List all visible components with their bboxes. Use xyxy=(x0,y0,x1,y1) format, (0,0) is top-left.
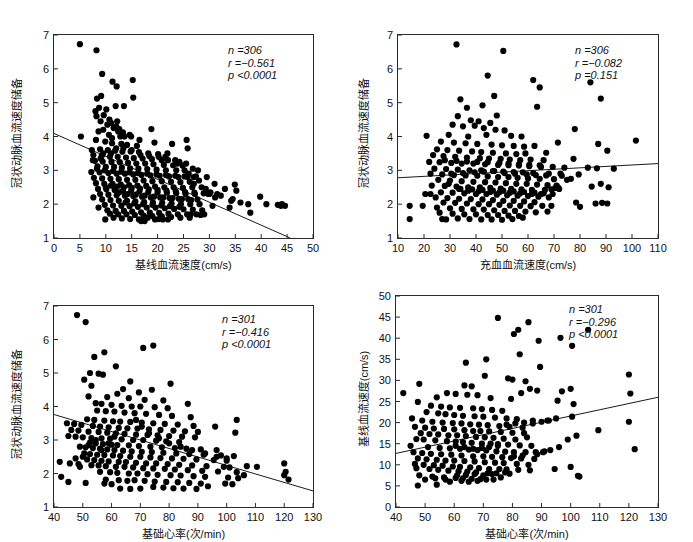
panel-c-x-tick-label: 40 xyxy=(48,511,60,523)
data-point xyxy=(116,477,122,483)
data-point xyxy=(183,446,189,452)
data-point xyxy=(480,453,486,459)
data-point xyxy=(604,148,610,154)
figure-scatter-grid: 冠状动脉血流速度储备 n =306 r =−0.561 p <0.0001 基线… xyxy=(0,0,693,542)
panel-d-x-tick-label: 120 xyxy=(620,511,638,523)
data-point xyxy=(576,171,582,177)
data-point xyxy=(125,160,131,166)
data-point xyxy=(198,480,204,486)
panel-d-y-tick-label: 50 xyxy=(369,290,391,302)
data-point xyxy=(178,472,184,478)
data-point xyxy=(548,203,554,209)
data-point xyxy=(74,312,80,318)
data-point xyxy=(136,389,142,395)
data-point xyxy=(598,96,604,102)
data-point xyxy=(435,410,441,416)
panel-c-x-tick-label: 60 xyxy=(105,511,117,523)
panel-d-y-tick-label: 30 xyxy=(369,374,391,386)
data-point xyxy=(447,445,453,451)
panel-d-stats: n =301 r =−0.296 p <0.0001 xyxy=(569,303,618,341)
data-point xyxy=(97,469,103,475)
data-point xyxy=(502,170,508,176)
data-point xyxy=(127,486,133,492)
data-point xyxy=(577,204,583,210)
panel-b-x-axis-title: 充血血流速度(cm/s) xyxy=(397,256,659,272)
data-point xyxy=(158,202,164,208)
data-point xyxy=(431,425,437,431)
data-point xyxy=(550,164,556,170)
data-point xyxy=(433,194,439,200)
data-point xyxy=(173,188,179,194)
data-point xyxy=(504,422,510,428)
data-point xyxy=(68,427,74,433)
data-point xyxy=(109,79,115,85)
data-point xyxy=(83,319,89,325)
data-point xyxy=(149,202,155,208)
data-point xyxy=(98,118,104,124)
panel-a-y-tick-label: 4 xyxy=(27,131,49,143)
data-point xyxy=(137,152,143,158)
panel-b-x-tick-label: 30 xyxy=(444,242,456,254)
data-point xyxy=(150,484,156,490)
data-point xyxy=(199,184,205,190)
data-point xyxy=(151,139,157,145)
data-point xyxy=(559,388,565,394)
panel-b-y-tick-label: 7 xyxy=(371,29,393,41)
data-point xyxy=(227,204,233,210)
data-point xyxy=(129,147,135,153)
data-point xyxy=(173,167,179,173)
panel-b-x-tick-label: 100 xyxy=(623,242,641,254)
data-point xyxy=(415,455,421,461)
data-point xyxy=(526,162,532,168)
data-point xyxy=(177,215,183,221)
data-point xyxy=(98,155,104,161)
panel-b-x-tick-label: 60 xyxy=(522,242,534,254)
data-point xyxy=(472,413,478,419)
data-point xyxy=(177,179,183,185)
data-point xyxy=(98,435,104,441)
data-point xyxy=(418,430,424,436)
data-point xyxy=(193,486,199,492)
data-point xyxy=(188,211,194,217)
data-point xyxy=(77,464,83,470)
data-point xyxy=(450,420,456,426)
data-point xyxy=(489,142,495,148)
data-point xyxy=(121,133,127,139)
data-point xyxy=(222,186,228,192)
data-point xyxy=(144,171,150,177)
panel-c-y-tick-label: 1 xyxy=(27,501,49,513)
panel-c-stat-r: r =−0.416 xyxy=(222,326,271,339)
data-point xyxy=(77,444,83,450)
data-point xyxy=(87,370,93,376)
data-point xyxy=(230,196,236,202)
data-point xyxy=(487,120,493,126)
data-point xyxy=(80,454,86,460)
data-point xyxy=(606,184,612,190)
data-point xyxy=(568,386,574,392)
data-point xyxy=(65,433,71,439)
data-point xyxy=(224,455,230,461)
data-point xyxy=(490,435,496,441)
data-point xyxy=(492,127,498,133)
data-point xyxy=(102,167,108,173)
data-point xyxy=(99,175,105,181)
panel-b-y-tick-label: 1 xyxy=(371,232,393,244)
data-point xyxy=(421,462,427,468)
data-point xyxy=(281,460,287,466)
data-point xyxy=(120,145,126,151)
data-point xyxy=(113,145,119,151)
data-point xyxy=(235,475,241,481)
data-point xyxy=(448,452,454,458)
data-point xyxy=(626,419,632,425)
data-point xyxy=(492,460,498,466)
data-point xyxy=(528,156,534,162)
data-point xyxy=(509,430,515,436)
data-point xyxy=(156,154,162,160)
data-point xyxy=(479,102,485,108)
data-point xyxy=(604,200,610,206)
panel-b-x-tick-label: 20 xyxy=(418,242,430,254)
data-point xyxy=(172,173,178,179)
data-point xyxy=(161,162,167,168)
panel-d-y-tick-label: 20 xyxy=(369,417,391,429)
data-point xyxy=(215,468,221,474)
